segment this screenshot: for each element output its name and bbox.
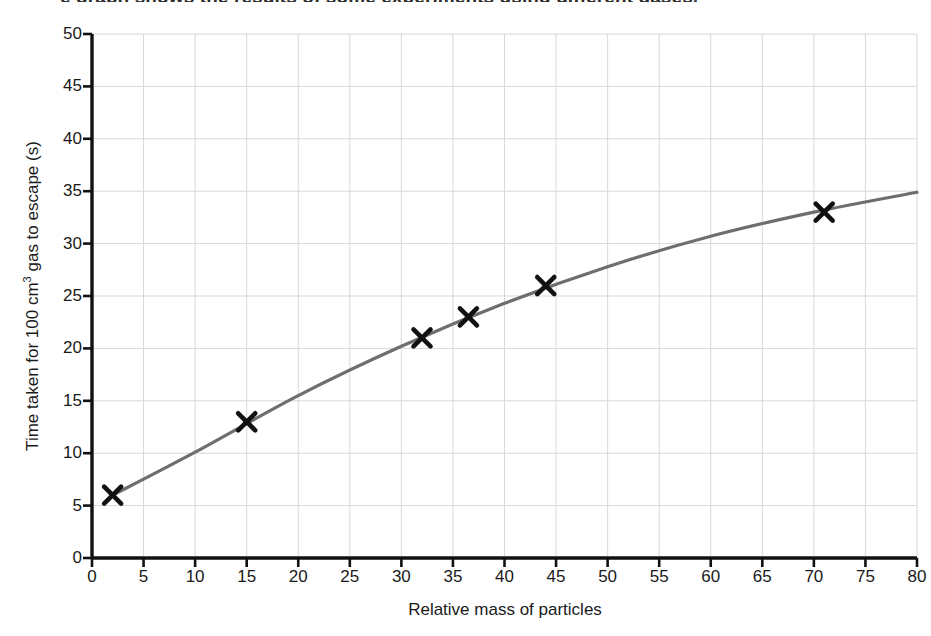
chart-figure: e graph shows the results of some experi… xyxy=(0,0,931,636)
plot-area xyxy=(0,0,931,636)
